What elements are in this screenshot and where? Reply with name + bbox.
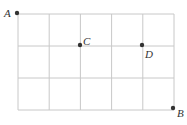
point-marker bbox=[78, 43, 82, 47]
point-d: D bbox=[140, 43, 153, 60]
point-a: A bbox=[3, 7, 19, 19]
point-marker bbox=[15, 11, 19, 15]
grid-lines bbox=[18, 14, 174, 110]
point-marker bbox=[140, 43, 144, 47]
point-c: C bbox=[78, 35, 91, 47]
point-b: B bbox=[171, 106, 184, 119]
grid-diagram: ACDB bbox=[0, 0, 187, 125]
points: ACDB bbox=[3, 7, 184, 119]
point-label: B bbox=[177, 107, 184, 119]
point-label: A bbox=[3, 7, 11, 19]
point-marker bbox=[171, 106, 175, 110]
point-label: C bbox=[83, 35, 91, 47]
point-label: D bbox=[144, 48, 153, 60]
